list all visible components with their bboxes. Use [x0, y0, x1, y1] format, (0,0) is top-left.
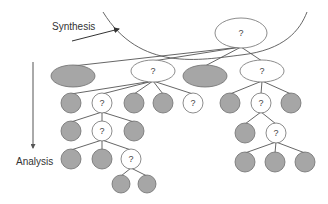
unknown-node-f3: ? [121, 149, 141, 169]
known-node-h2 [138, 175, 156, 193]
question-mark-label: ? [258, 98, 263, 108]
node-shape [61, 121, 81, 141]
question-mark-label: ? [190, 98, 195, 108]
node-shape [61, 93, 81, 113]
known-node-f2 [92, 149, 112, 169]
synthesis-analysis-tree-diagram: ????????? Synthesis Analysis [0, 0, 328, 204]
unknown-node-root: ? [215, 18, 267, 48]
unknown-node-d2: ? [92, 121, 112, 141]
known-node-f1 [61, 149, 81, 169]
node-shape [183, 65, 227, 87]
tree-edge [262, 81, 291, 94]
known-node-c1 [220, 93, 240, 113]
known-node-g3 [295, 152, 315, 172]
node-shape [92, 149, 112, 169]
node-shape [281, 93, 301, 113]
tree-edge [245, 112, 261, 124]
node-shape [124, 93, 144, 113]
question-mark-label: ? [273, 128, 278, 138]
unknown-node-c2: ? [251, 93, 271, 113]
unknown-node-b2: ? [92, 93, 112, 113]
unknown-node-e2: ? [266, 123, 286, 143]
known-node-d3 [124, 121, 144, 141]
question-mark-label: ? [238, 28, 243, 38]
question-mark-label: ? [99, 98, 104, 108]
analysis-label: Analysis [16, 156, 53, 167]
tree-edge [102, 140, 131, 150]
node-shape [265, 152, 285, 172]
node-shape [138, 175, 156, 193]
tree-edge [153, 81, 193, 94]
known-node-g1 [235, 152, 255, 172]
tree-edge [245, 142, 276, 153]
tree-edge [261, 112, 276, 124]
tree-edge [102, 112, 134, 122]
synthesis-label: Synthesis [52, 21, 95, 32]
node-shape [295, 152, 315, 172]
known-node-l1c [183, 65, 227, 87]
tree-nodes: ????????? [51, 18, 315, 193]
known-node-g2 [265, 152, 285, 172]
node-shape [124, 121, 144, 141]
tree-edge [230, 81, 262, 94]
node-shape [220, 93, 240, 113]
tree-edge [276, 142, 305, 153]
known-node-d1 [61, 121, 81, 141]
unknown-node-b5: ? [183, 93, 203, 113]
question-mark-label: ? [128, 154, 133, 164]
tree-edge [71, 112, 102, 122]
tree-edge [241, 47, 262, 61]
tree-edge [261, 81, 262, 94]
known-node-l1a [51, 65, 95, 87]
known-node-b3 [124, 93, 144, 113]
known-node-h1 [112, 175, 130, 193]
known-node-c3 [281, 93, 301, 113]
node-shape [51, 65, 95, 87]
node-shape [235, 123, 255, 143]
tree-edge [275, 142, 276, 153]
known-node-e1 [235, 123, 255, 143]
known-node-b4 [153, 93, 173, 113]
question-mark-label: ? [259, 66, 264, 76]
node-shape [153, 93, 173, 113]
known-node-b1 [61, 93, 81, 113]
unknown-node-l1d: ? [240, 60, 284, 82]
node-shape [112, 175, 130, 193]
unknown-node-l1b: ? [131, 60, 175, 82]
question-mark-label: ? [150, 66, 155, 76]
question-mark-label: ? [99, 126, 104, 136]
node-shape [61, 149, 81, 169]
tree-edge [131, 168, 147, 176]
tree-edge [71, 140, 102, 150]
node-shape [235, 152, 255, 172]
